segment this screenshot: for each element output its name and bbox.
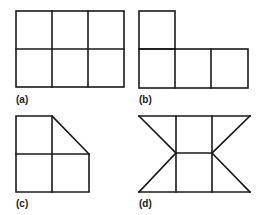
panel-c-shape — [16, 116, 89, 192]
panel-d-label: (d) — [139, 198, 152, 209]
panel-b-lshape — [139, 11, 248, 88]
figure-canvas: (a) (b) (c) (d) — [0, 0, 260, 215]
panel-d-hourglass — [139, 116, 250, 192]
panel-a-grid — [16, 11, 124, 87]
panel-b-label: (b) — [139, 94, 152, 105]
panel-a-label: (a) — [16, 94, 28, 105]
panel-c-label: (c) — [16, 198, 28, 209]
